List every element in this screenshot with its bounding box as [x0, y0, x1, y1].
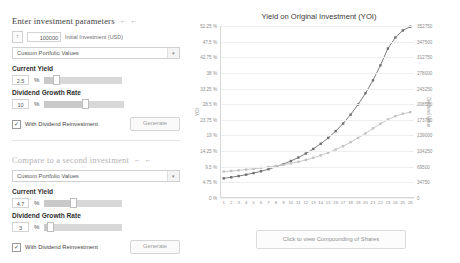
y2-axis-tick: 69500	[417, 164, 430, 169]
chart-title: Yield on Original Investment (YOI)	[186, 12, 452, 21]
y-axis-tick: 47.5 %	[203, 39, 217, 44]
current-yield-slider-primary[interactable]	[44, 76, 180, 84]
dividend-calculator-app: Enter investment parameters ← ← ↕ 100000…	[0, 0, 460, 263]
y-axis-tick: 42.75 %	[200, 55, 217, 60]
chart-data-point	[402, 113, 404, 115]
reinvest-row-primary: ✓ With Dividend Reinvestment Generate	[12, 117, 180, 131]
x-axis-tick: 11	[296, 200, 300, 205]
growth-rate-title-secondary: Dividend Growth Rate	[12, 212, 180, 219]
y2-axis-tick: 139000	[417, 133, 432, 138]
chart-data-point	[342, 122, 344, 124]
chart-axis-left	[220, 26, 221, 198]
growth-rate-row-primary: 10 %	[12, 99, 180, 109]
chart-data-point	[349, 113, 351, 115]
chart-data-point	[320, 143, 322, 145]
chart-data-point	[237, 175, 239, 177]
x-axis-tick: 9	[282, 200, 284, 205]
current-yield-title-secondary: Current Yield	[12, 188, 180, 195]
initial-investment-input[interactable]: 100000	[27, 32, 61, 42]
chart-gridline	[220, 198, 414, 199]
slider-knob[interactable]	[82, 99, 89, 109]
portfolio-select-primary-value: Custom Portfolio Values	[17, 50, 79, 56]
percent-label-primary-yield: %	[34, 77, 39, 83]
x-axis-tick: 7	[267, 200, 269, 205]
reinvest-checkbox-primary[interactable]: ✓	[12, 120, 21, 129]
slider-knob[interactable]	[70, 198, 77, 208]
y2-axis-tick: 173750	[417, 117, 432, 122]
chart-gridline	[220, 182, 414, 183]
chart-data-point	[252, 168, 254, 170]
chart-data-point	[372, 79, 374, 81]
x-axis-tick: 24	[393, 200, 398, 205]
chart-data-point	[402, 29, 404, 31]
current-yield-input-secondary[interactable]: 4.7	[12, 198, 29, 208]
chart-data-point	[394, 36, 396, 38]
x-axis-tick: 23	[385, 200, 390, 205]
y2-axis-tick: 0	[417, 196, 420, 201]
y-axis-tick: 52.25 %	[200, 24, 217, 29]
chart-data-point	[394, 115, 396, 117]
chart-data-point	[297, 161, 299, 163]
chart-gridline	[220, 89, 414, 90]
growth-rate-input-secondary[interactable]: 3	[12, 222, 29, 232]
portfolio-select-primary[interactable]: Custom Portfolio Values ▾	[12, 47, 180, 59]
chart-line	[224, 112, 411, 171]
chart-data-point	[364, 132, 366, 134]
y2-axis-tick: 347500	[417, 39, 432, 44]
generate-button-secondary[interactable]: Generate	[130, 240, 180, 254]
x-axis-tick: 21	[371, 200, 376, 205]
chart-data-point	[297, 156, 299, 158]
x-axis-tick: 3	[237, 200, 239, 205]
stepper-icon[interactable]: ↕	[12, 31, 23, 43]
chart-data-point	[409, 111, 411, 113]
y2-axis-tick: 278000	[417, 70, 432, 75]
x-axis-tick: 14	[318, 200, 323, 205]
x-axis-tick: 10	[288, 200, 293, 205]
x-axis-tick: 1	[223, 200, 225, 205]
chart-data-point	[305, 152, 307, 154]
x-axis-tick: 6	[260, 200, 262, 205]
primary-investment-panel: Enter investment parameters ← ← ↕ 100000…	[12, 16, 180, 141]
chart-gridline	[220, 57, 414, 58]
chart-data-point	[364, 92, 366, 94]
chart-panel: Yield on Original Investment (YOI) YOI D…	[186, 8, 452, 220]
reinvest-row-secondary: ✓ With Dividend Reinvestment Generate	[12, 240, 180, 254]
chart-data-point	[290, 160, 292, 162]
portfolio-select-secondary[interactable]: Custom Portfolio Values ▾	[12, 170, 180, 182]
growth-rate-slider-secondary[interactable]	[44, 223, 180, 231]
x-axis-tick: 16	[333, 200, 338, 205]
chart-axis-bottom	[220, 197, 414, 198]
growth-rate-slider-primary[interactable]	[44, 100, 180, 108]
chart-data-point	[327, 137, 329, 139]
slider-knob[interactable]	[47, 222, 54, 232]
primary-panel-header: Enter investment parameters ← ←	[12, 16, 180, 26]
portfolio-select-secondary-value: Custom Portfolio Values	[17, 173, 79, 179]
reinvest-label-secondary: With Dividend Reinvestment	[25, 244, 98, 250]
x-axis-tick: 17	[341, 200, 346, 205]
chart-data-point	[372, 127, 374, 129]
chart-data-point	[252, 172, 254, 174]
chevron-down-icon[interactable]: ▾	[167, 171, 179, 181]
secondary-panel-title: Compare to a second investment	[12, 155, 129, 165]
left-arrows-icon: ← ←	[134, 156, 153, 164]
chart-plot-area: YOI Dividend Value 0 %04.75 %347509.5 %6…	[220, 26, 414, 198]
chevron-down-icon[interactable]: ▾	[167, 48, 179, 58]
x-axis-tick: 18	[348, 200, 353, 205]
current-yield-row-secondary: 4.7 %	[12, 198, 180, 208]
chart-series-svg	[220, 26, 414, 186]
current-yield-title-primary: Current Yield	[12, 65, 180, 72]
slider-knob[interactable]	[53, 75, 60, 85]
x-axis-tick: 19	[356, 200, 361, 205]
current-yield-input-primary[interactable]: 2.5	[12, 75, 29, 85]
growth-rate-input-primary[interactable]: 10	[12, 99, 29, 109]
chart-data-point	[379, 123, 381, 125]
generate-button-primary[interactable]: Generate	[130, 117, 180, 131]
chart-data-point	[237, 169, 239, 171]
y2-axis-tick: 352750	[417, 24, 432, 29]
initial-investment-label: Initial Investment (USD)	[65, 34, 123, 40]
view-compounding-button[interactable]: Click to view Compounding of Shares	[256, 230, 406, 249]
current-yield-slider-secondary[interactable]	[44, 199, 180, 207]
chart-gridline	[220, 73, 414, 74]
chart-data-point	[267, 168, 269, 170]
reinvest-checkbox-secondary[interactable]: ✓	[12, 243, 21, 252]
